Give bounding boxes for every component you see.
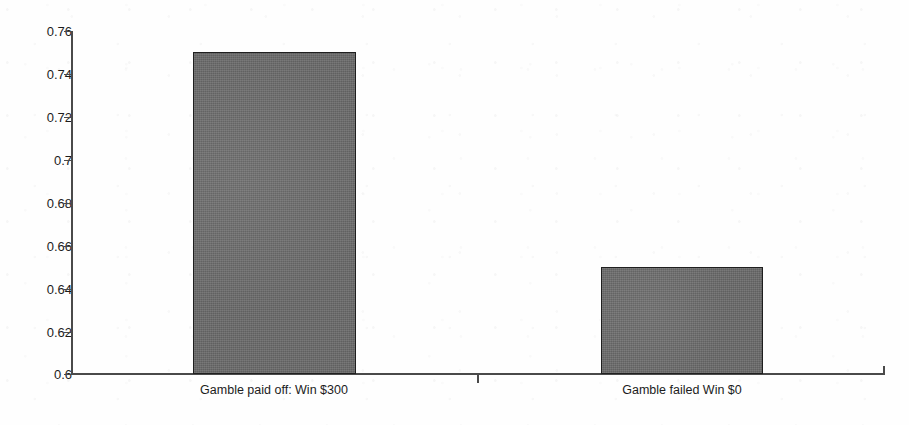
y-axis-tick-4: 0.68: [0, 197, 72, 210]
y-axis-tick-2: 0.72: [0, 111, 72, 124]
y-axis-line: [71, 31, 73, 375]
bar-gamble-failed[interactable]: [601, 267, 763, 374]
y-axis-tick-7: 0.62: [0, 326, 72, 339]
y-axis-tick-6: 0.64: [0, 283, 72, 296]
bar-gamble-paid-off[interactable]: [193, 52, 356, 374]
paper-texture-overlay: [0, 0, 909, 425]
bar-chart: 0.76 0.74 0.72 0.7 0.68 0.66 0.64 0.62 0…: [0, 0, 909, 425]
x-axis-category-label-1: Gamble failed Win $0: [562, 383, 802, 398]
x-axis-category-label-0: Gamble paid off: Win $300: [154, 383, 394, 398]
x-axis-end-tick: [883, 366, 885, 375]
x-axis-category-separator-tick: [477, 374, 479, 383]
y-axis-tick-8: 0.6: [0, 368, 72, 381]
y-axis-tick-1: 0.74: [0, 68, 72, 81]
y-axis-tick-0: 0.76: [0, 25, 72, 38]
y-axis-tick-3: 0.7: [0, 154, 72, 167]
y-axis-tick-5: 0.66: [0, 240, 72, 253]
